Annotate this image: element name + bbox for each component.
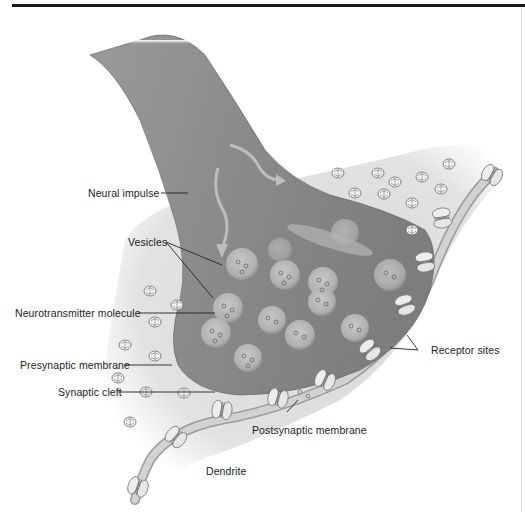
label-dendrite: Dendrite [206, 465, 247, 477]
label-neural-impulse: Neural impulse [88, 187, 159, 199]
label-presynaptic-membrane: Presynaptic membrane [20, 359, 130, 371]
label-synaptic-cleft: Synaptic cleft [58, 386, 122, 398]
label-receptor-sites: Receptor sites [431, 344, 500, 356]
label-vesicles: Vesicles [128, 236, 167, 248]
label-postsynaptic-membrane: Postsynaptic membrane [252, 424, 367, 436]
label-neurotransmitter-molecule: Neurotransmitter molecule [15, 307, 141, 319]
